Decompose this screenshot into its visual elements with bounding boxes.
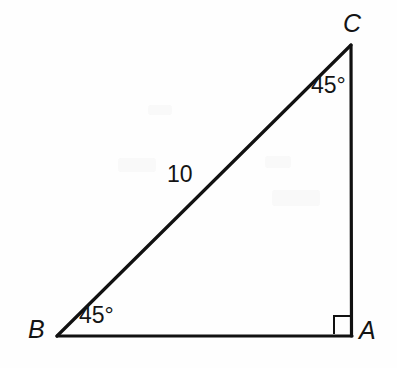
vertex-label-B: B (28, 317, 45, 342)
side-length-label-BC: 10 (167, 163, 193, 186)
angle-label-at-C: 45° (311, 74, 346, 97)
vertex-label-A: A (359, 318, 376, 343)
vertex-label-C: C (343, 11, 361, 36)
triangle-svg-canvas (0, 0, 397, 368)
triangle-diagram-figure: C B A 45° 45° 10 (0, 0, 397, 368)
angle-label-at-B: 45° (79, 304, 114, 327)
right-angle-marker (334, 316, 351, 334)
edge-AC (351, 45, 352, 336)
edge-BC (57, 45, 351, 336)
